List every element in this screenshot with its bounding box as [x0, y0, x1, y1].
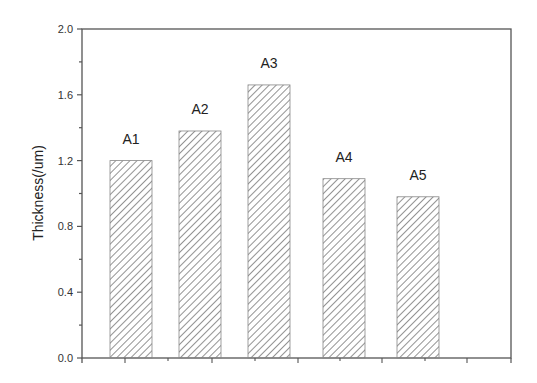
y-tick-label: 1.6: [58, 89, 73, 101]
y-tick-label: 0.4: [58, 286, 73, 298]
bar-label-a4: A4: [335, 149, 352, 165]
y-tick-label: 1.2: [58, 155, 73, 167]
y-axis-title: Thickness(/um): [30, 145, 46, 241]
y-axis-ticks: 0.00.40.81.21.62.0: [58, 23, 82, 364]
bar-chart: A1A2A3A4A5 0.00.40.81.21.62.0 Thickness(…: [0, 0, 537, 383]
bar-label-a3: A3: [260, 55, 277, 71]
bar-label-a5: A5: [409, 167, 426, 183]
bar-a5: [397, 197, 439, 358]
bar-a1: [110, 161, 152, 358]
bar-a4: [323, 179, 365, 358]
y-tick-label: 2.0: [58, 23, 73, 35]
bar-label-a1: A1: [122, 131, 139, 147]
bar-label-a2: A2: [191, 101, 208, 117]
bar-a2: [179, 131, 221, 358]
x-axis-ticks: [125, 358, 511, 363]
bars-group: A1A2A3A4A5: [110, 55, 439, 358]
y-tick-label: 0.0: [58, 352, 73, 364]
y-tick-label: 0.8: [58, 220, 73, 232]
bar-a3: [248, 85, 290, 358]
